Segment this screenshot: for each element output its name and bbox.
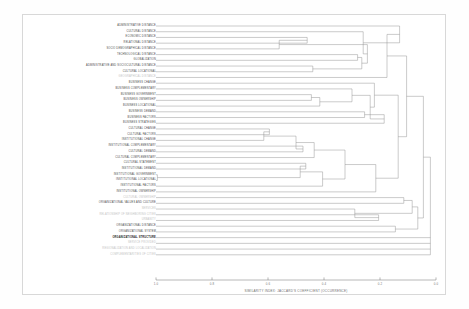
dendrogram-link [352,95,384,119]
dendrogram-link [156,32,367,54]
dendrogram-figure: ADMINISTRATIVE DISTANCECULTURAL DISTANCE… [0,0,469,309]
axis-tick-label: 1.0 [154,282,158,286]
dendrogram-links [156,26,430,255]
dendrogram-link [156,165,376,192]
axis-title: SIMILARITY INDEX: JACCARD'S COEFFICIENT … [245,289,348,293]
dendrogram-link [156,146,303,152]
dendrogram-link [156,115,384,124]
axis-tick-label: 0.0 [434,282,438,286]
dendrogram-link [156,83,374,107]
dendrogram-link [156,226,395,232]
dendrogram-link [423,157,430,255]
dendrogram-link [156,129,269,135]
axis-line [156,277,436,280]
dendrogram-link [156,163,306,169]
dendrogram-link [156,209,379,218]
axis-tick-label: 0.2 [378,282,382,286]
dendrogram-link [395,207,417,229]
dendrogram-link [313,57,362,68]
dendrogram-link [156,198,404,204]
dendrogram-plot [0,0,469,309]
dendrogram-link [156,215,379,221]
dendrogram-link [156,132,269,141]
axis-tick-label: 0.8 [210,282,214,286]
dendrogram-link [387,56,407,137]
dendrogram-link [156,172,323,186]
dendrogram-link [156,89,352,102]
dendrogram-link [156,95,311,101]
dendrogram-link [156,112,365,118]
dendrogram-link [156,66,313,72]
dendrogram-link [407,96,424,218]
dendrogram-link [374,95,398,178]
axis-tick-label: 0.4 [322,282,326,286]
dendrogram-link [156,175,157,181]
axis-tick-label: 0.6 [266,282,270,286]
dendrogram-link [156,143,314,158]
dendrogram-link [156,55,358,61]
dendrogram-link [156,98,320,107]
dendrogram-link [314,150,345,179]
dendrogram-link [157,166,305,177]
